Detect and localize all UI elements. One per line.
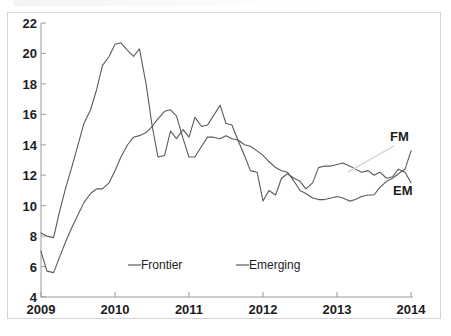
fm-label: FM <box>390 129 409 144</box>
x-tick-label-2009: 2009 <box>27 302 56 317</box>
x-tick-label-2014: 2014 <box>397 302 427 317</box>
series-lines-group <box>41 43 411 273</box>
fm-leader-line <box>348 146 394 172</box>
y-tick-marks <box>41 23 46 297</box>
y-tick-label-14: 14 <box>23 138 38 153</box>
x-tick-label-2012: 2012 <box>249 302 278 317</box>
legend-label-frontier: Frontier <box>141 258 182 272</box>
line-chart-canvas: 22 20 18 16 14 12 10 8 6 4 2009 2010 201… <box>0 0 451 336</box>
x-tick-label-2010: 2010 <box>101 302 130 317</box>
y-tick-label-18: 18 <box>23 77 37 92</box>
y-tick-label-8: 8 <box>30 229 37 244</box>
x-tick-label-2011: 2011 <box>175 302 203 317</box>
legend-label-emerging: Emerging <box>249 258 300 272</box>
y-tick-label-20: 20 <box>23 46 37 61</box>
chart-figure: 22 20 18 16 14 12 10 8 6 4 2009 2010 201… <box>0 0 451 336</box>
y-axis-group: 22 20 18 16 14 12 10 8 6 4 <box>23 16 46 305</box>
x-tick-marks <box>41 292 411 297</box>
x-tick-label-2013: 2013 <box>323 302 352 317</box>
legend-group: Frontier Emerging <box>128 258 300 272</box>
y-tick-label-22: 22 <box>23 16 37 31</box>
em-annotation-group: EM <box>393 183 413 198</box>
y-tick-label-12: 12 <box>23 168 37 183</box>
series-line-emerging <box>41 43 411 238</box>
y-tick-label-10: 10 <box>23 199 37 214</box>
x-axis-group: 2009 2010 2011 2012 2013 2014 <box>27 292 427 317</box>
y-tick-label-16: 16 <box>23 107 37 122</box>
em-label: EM <box>393 183 413 198</box>
y-tick-label-6: 6 <box>30 260 37 275</box>
series-line-frontier <box>41 110 411 273</box>
fm-annotation-group: FM <box>348 129 409 172</box>
